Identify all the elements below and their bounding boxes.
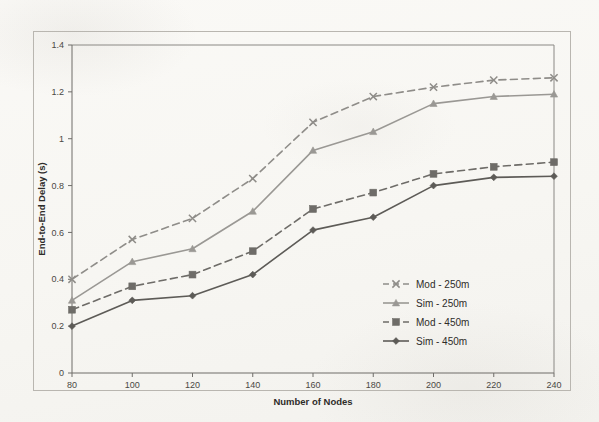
- marker-square: [69, 306, 76, 313]
- y-axis: 00.20.40.60.811.21.4: [51, 40, 72, 378]
- x-axis-title: Number of Nodes: [273, 396, 352, 407]
- legend-item[interactable]: Sim - 250m: [383, 298, 467, 309]
- marker-cross: [189, 215, 196, 222]
- y-tick-label: 0: [59, 368, 64, 378]
- marker-diamond: [370, 214, 377, 221]
- x-tick-label: 80: [67, 380, 77, 390]
- marker-diamond: [551, 173, 558, 180]
- chart-canvas: 00.20.40.60.811.21.480100120140160180200…: [0, 0, 599, 422]
- marker-diamond: [430, 182, 437, 189]
- marker-diamond: [129, 297, 136, 304]
- x-tick-label: 120: [185, 380, 200, 390]
- marker-square: [490, 163, 497, 170]
- series-line-2: [72, 94, 554, 300]
- legend-item[interactable]: Sim - 450m: [383, 336, 467, 347]
- marker-square: [249, 248, 256, 255]
- marker-diamond: [69, 323, 76, 330]
- x-tick-label: 180: [366, 380, 381, 390]
- y-tick-label: 1: [59, 134, 64, 144]
- marker-square: [370, 189, 377, 196]
- legend-label: Sim - 250m: [416, 298, 467, 309]
- series-4: [69, 173, 558, 330]
- legend-item[interactable]: Mod - 250m: [383, 279, 469, 290]
- marker-diamond: [393, 338, 400, 345]
- legend: Mod - 250mSim - 250mMod - 450mSim - 450m: [383, 279, 469, 347]
- x-tick-label: 220: [486, 380, 501, 390]
- y-tick-label: 0.8: [51, 181, 64, 191]
- x-tick-label: 100: [125, 380, 140, 390]
- figure-page: 00.20.40.60.811.21.480100120140160180200…: [0, 0, 599, 422]
- marker-square: [310, 206, 317, 213]
- y-axis-title: End-to-End Delay (s): [36, 162, 47, 255]
- x-tick-label: 240: [546, 380, 561, 390]
- marker-diamond: [189, 292, 196, 299]
- y-tick-label: 0.2: [51, 321, 64, 331]
- series-line-4: [72, 176, 554, 326]
- legend-label: Mod - 250m: [416, 279, 469, 290]
- y-tick-label: 1.4: [51, 40, 64, 50]
- y-tick-label: 1.2: [51, 87, 64, 97]
- marker-square: [129, 283, 136, 290]
- legend-item[interactable]: Mod - 450m: [383, 317, 469, 328]
- y-tick-label: 0.6: [51, 228, 64, 238]
- y-tick-label: 0.4: [51, 274, 64, 284]
- line-chart: 00.20.40.60.811.21.480100120140160180200…: [0, 0, 599, 422]
- marker-square: [430, 170, 437, 177]
- x-tick-label: 160: [305, 380, 320, 390]
- legend-label: Mod - 450m: [416, 317, 469, 328]
- marker-triangle: [189, 245, 196, 251]
- marker-square: [189, 271, 196, 278]
- marker-cross: [249, 175, 256, 182]
- marker-diamond: [490, 174, 497, 181]
- marker-square: [393, 319, 400, 326]
- legend-label: Sim - 450m: [416, 336, 467, 347]
- x-tick-label: 200: [426, 380, 441, 390]
- x-axis: 80100120140160180200220240: [67, 373, 562, 390]
- marker-cross: [309, 119, 316, 126]
- marker-triangle: [68, 297, 75, 303]
- marker-square: [551, 159, 558, 166]
- x-tick-label: 140: [245, 380, 260, 390]
